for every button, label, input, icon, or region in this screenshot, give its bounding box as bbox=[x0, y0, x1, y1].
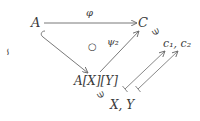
diagram-arrows bbox=[0, 0, 200, 121]
label-psi2: ψ₂ bbox=[107, 37, 119, 47]
node-A: A bbox=[31, 16, 40, 29]
rotated-symbol-icon: ∽ bbox=[3, 48, 13, 56]
arrow-mapsto-y bbox=[138, 51, 178, 89]
node-c1-c2: c₁, c₂ bbox=[163, 38, 191, 49]
node-X-Y: X, Y bbox=[110, 99, 134, 111]
node-AXY: A[X][Y] bbox=[74, 75, 118, 87]
node-C: C bbox=[138, 16, 148, 29]
commutative-diagram: A C φ ψ₂ ○ A[X][Y] ∋ c₁, c₂ ∋ X, Y ∽ bbox=[0, 0, 200, 121]
arrow-mapsto-x bbox=[125, 51, 165, 89]
arrow-psi2 bbox=[100, 31, 139, 72]
label-phi: φ bbox=[86, 8, 93, 18]
arrow-inclusion bbox=[41, 31, 88, 73]
commute-circle-icon: ○ bbox=[88, 42, 97, 52]
